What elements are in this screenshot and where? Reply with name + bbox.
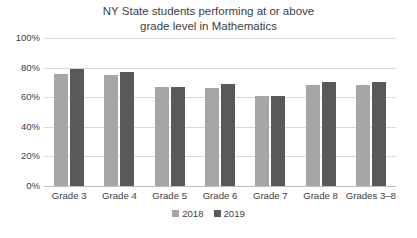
bar-2019 — [70, 69, 84, 186]
bar-2019 — [120, 72, 134, 186]
y-axis-tick-label: 100% — [0, 33, 40, 43]
bar-2018 — [104, 75, 118, 186]
bar-2019 — [171, 87, 185, 186]
bar-pair — [145, 38, 195, 186]
y-axis-labels: 100%80%60%40%20%0% — [0, 38, 40, 186]
y-axis-tick-label: 80% — [0, 63, 40, 73]
bar-2018 — [255, 96, 269, 186]
y-axis-tick-label: 40% — [0, 122, 40, 132]
y-axis-tick-label: 60% — [0, 92, 40, 102]
bar-group — [346, 38, 396, 186]
gridline — [44, 186, 396, 187]
bar-2019 — [271, 96, 285, 186]
bar-pair — [295, 38, 345, 186]
bar-group — [295, 38, 345, 186]
x-axis-tick-label: Grade 5 — [145, 189, 195, 205]
legend-label: 2019 — [224, 208, 245, 219]
bar-group — [195, 38, 245, 186]
bar-2018 — [54, 74, 68, 186]
x-axis-tick-label: Grades 3–8 — [346, 189, 396, 205]
bar-2019 — [322, 82, 336, 186]
legend-item-2018: 2018 — [172, 208, 203, 219]
x-axis-tick-label: Grade 8 — [295, 189, 345, 205]
bar-pair — [94, 38, 144, 186]
chart-title: NY State students performing at or above… — [0, 4, 417, 34]
bar-group — [245, 38, 295, 186]
bar-pair — [195, 38, 245, 186]
x-axis-tick-label: Grade 3 — [44, 189, 94, 205]
y-axis-tick-label: 0% — [0, 181, 40, 191]
bar-pair — [346, 38, 396, 186]
legend-swatch-icon — [214, 210, 221, 217]
bar-2018 — [155, 87, 169, 186]
bar-chart: NY State students performing at or above… — [0, 0, 417, 238]
bar-2019 — [221, 84, 235, 186]
bar-group — [145, 38, 195, 186]
bar-2018 — [306, 85, 320, 186]
legend-item-2019: 2019 — [214, 208, 245, 219]
x-axis-tick-label: Grade 6 — [195, 189, 245, 205]
legend-label: 2018 — [182, 208, 203, 219]
bar-2018 — [356, 85, 370, 186]
bar-2018 — [205, 88, 219, 186]
legend-swatch-icon — [172, 210, 179, 217]
bar-pair — [44, 38, 94, 186]
x-axis-tick-label: Grade 7 — [245, 189, 295, 205]
plot-area — [44, 38, 396, 186]
bar-group — [44, 38, 94, 186]
bar-2019 — [372, 82, 386, 186]
bar-group — [94, 38, 144, 186]
chart-title-line-1: NY State students performing at or above — [0, 4, 417, 19]
bar-pair — [245, 38, 295, 186]
bar-groups — [44, 38, 396, 186]
chart-title-line-2: grade level in Mathematics — [0, 19, 417, 34]
x-axis-labels: Grade 3Grade 4Grade 5Grade 6Grade 7Grade… — [44, 189, 396, 205]
x-axis-tick-label: Grade 4 — [94, 189, 144, 205]
chart-legend: 20182019 — [0, 208, 417, 219]
y-axis-tick-label: 20% — [0, 151, 40, 161]
